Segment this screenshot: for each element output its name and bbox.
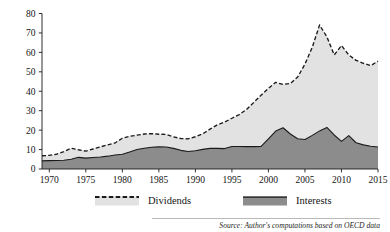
legend-label: Interests (296, 195, 332, 206)
x-tick-label: 1975 (76, 175, 95, 185)
source-note: Source: Author's computations based on O… (219, 221, 380, 230)
x-tick-label: 1995 (222, 175, 241, 185)
x-tick-label: 1980 (113, 175, 132, 185)
y-tick-label: 20 (26, 126, 36, 136)
y-tick-label: 10 (26, 145, 36, 155)
x-tick-label: 1985 (149, 175, 168, 185)
y-tick-label: 60 (26, 48, 36, 58)
y-tick-label: 50 (26, 67, 36, 77)
chart-figure: 01020304050607080 1970197519801985199019… (0, 0, 390, 232)
y-tick-label: 30 (26, 106, 36, 116)
x-tick-label: 2005 (295, 175, 314, 185)
y-tick-label: 0 (31, 164, 36, 174)
y-tick-label: 40 (26, 87, 36, 97)
legend-swatch (243, 197, 287, 206)
y-tick-label: 70 (26, 28, 36, 38)
x-tick-label: 2010 (332, 175, 351, 185)
y-tick-label: 80 (26, 9, 36, 19)
x-tick-label: 2000 (259, 175, 278, 185)
legend-label: Dividends (148, 195, 191, 206)
x-tick-label: 2015 (369, 175, 388, 185)
x-tick-label: 1990 (186, 175, 205, 185)
x-tick-label: 1970 (40, 175, 59, 185)
stacked-area-chart: 01020304050607080 1970197519801985199019… (0, 0, 390, 232)
